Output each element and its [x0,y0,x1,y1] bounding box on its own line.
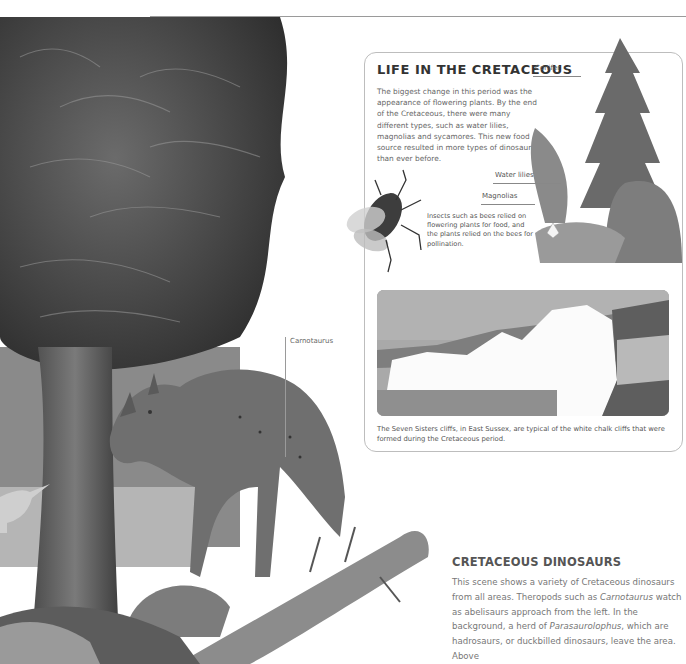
magnolias-label: Magnolias [482,192,517,200]
bee-illustration [341,165,431,275]
photo-caption: The Seven Sisters cliffs, in East Sussex… [377,424,677,444]
seven-sisters-cliffs-photo [377,290,669,416]
water-lilies-pointer [493,183,561,184]
carnotaurus-label: Carnotaurus [290,337,333,345]
species-parasaurolophus: Parasaurolophus [550,621,622,631]
water-lilies-label: Water lilies [495,171,534,179]
life-in-cretaceous-panel: LIFE IN THE CRETACEOUS The biggest chang… [364,52,683,452]
species-carnotaurus: Carnotaurus [600,592,653,602]
cretaceous-dinosaurs-section: CRETACEOUS DINOSAURS This scene shows a … [452,555,682,664]
magnolias-pointer [481,204,535,205]
dinosaurs-section-title: CRETACEOUS DINOSAURS [452,555,682,569]
conifer-pointer [533,76,581,77]
conifer-label: Conifer [535,64,560,72]
insect-caption: Insects such as bees relied on flowering… [427,212,537,249]
dinosaurs-section-body: This scene shows a variety of Cretaceous… [452,575,682,664]
carnotaurus-callout-line [285,337,286,457]
